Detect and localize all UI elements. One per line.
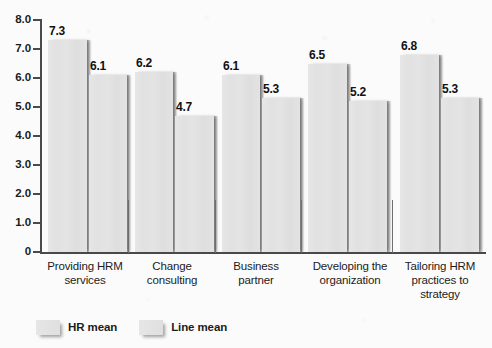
category-separator bbox=[301, 200, 302, 253]
bar-line-mean: 5.3 bbox=[262, 98, 300, 252]
y-axis-tick bbox=[33, 222, 42, 224]
y-axis-tick-label-wrap: 1.0 bbox=[0, 217, 31, 229]
bar-hr-mean: 6.1 bbox=[222, 75, 260, 252]
y-axis-tick-label: 0 bbox=[1, 246, 31, 258]
y-axis-tick-label: 7.0 bbox=[1, 43, 31, 55]
y-axis-tick bbox=[33, 193, 42, 195]
y-axis-tick-label-wrap: 6.0 bbox=[0, 72, 31, 84]
y-axis-tick bbox=[33, 135, 42, 137]
chart-legend: HR meanLine mean bbox=[36, 320, 227, 335]
category-label-line: practices to bbox=[390, 273, 490, 287]
legend-item: Line mean bbox=[139, 320, 227, 335]
y-axis-tick-label: 3.0 bbox=[1, 159, 31, 171]
bar-value-label: 7.3 bbox=[49, 25, 65, 37]
bar-value-label: 6.2 bbox=[136, 57, 152, 69]
category-label-line: strategy bbox=[390, 287, 490, 301]
bar-hr-mean: 6.5 bbox=[308, 64, 347, 253]
bar-value-label: 5.2 bbox=[350, 86, 366, 98]
legend-swatch bbox=[36, 320, 60, 335]
bar-hr-mean: 7.3 bbox=[48, 40, 87, 252]
bar-value-label: 6.1 bbox=[90, 60, 106, 72]
x-axis-line bbox=[40, 252, 486, 254]
y-axis-tick-label-wrap: 7.0 bbox=[0, 43, 31, 55]
legend-label: HR mean bbox=[68, 322, 117, 334]
bar-value-label: 5.3 bbox=[442, 83, 458, 95]
y-axis-tick bbox=[33, 48, 42, 50]
bar-hr-mean: 6.2 bbox=[135, 72, 173, 252]
legend-label: Line mean bbox=[171, 322, 227, 334]
bar-value-label: 5.3 bbox=[263, 83, 279, 95]
y-axis-tick bbox=[33, 164, 42, 166]
y-axis-tick-label: 5.0 bbox=[1, 101, 31, 113]
category-separator bbox=[215, 200, 216, 253]
bar-line-mean: 5.3 bbox=[441, 98, 479, 252]
bar-value-label: 4.7 bbox=[176, 101, 192, 113]
category-label-line: Change bbox=[125, 259, 219, 273]
y-axis-tick-label: 6.0 bbox=[1, 72, 31, 84]
category-separator bbox=[128, 200, 129, 253]
bar-line-mean: 5.2 bbox=[349, 101, 387, 252]
category-label-line: partner bbox=[209, 273, 303, 287]
y-axis-tick-label: 4.0 bbox=[1, 130, 31, 142]
bar-line-mean: 4.7 bbox=[175, 116, 214, 252]
y-axis-tick-label: 2.0 bbox=[1, 188, 31, 200]
category-separator bbox=[392, 200, 393, 253]
bar-shadow bbox=[387, 101, 391, 252]
y-axis-tick bbox=[33, 19, 42, 21]
category-label: Tailoring HRMpractices tostrategy bbox=[390, 259, 490, 301]
y-axis-tick-label-wrap: 0 bbox=[0, 246, 31, 258]
category-label-line: Business bbox=[209, 259, 303, 273]
y-axis-tick-label-wrap: 3.0 bbox=[0, 159, 31, 171]
bar-value-label: 6.1 bbox=[223, 60, 239, 72]
category-label-line: consulting bbox=[125, 273, 219, 287]
category-label: Businesspartner bbox=[209, 259, 303, 287]
y-axis-tick bbox=[33, 77, 42, 79]
y-axis-tick-label-wrap: 4.0 bbox=[0, 130, 31, 142]
bar-line-mean: 6.1 bbox=[89, 75, 127, 252]
bar-value-label: 6.8 bbox=[401, 40, 417, 52]
y-axis-tick-label-wrap: 5.0 bbox=[0, 101, 31, 113]
y-axis-tick-label-wrap: 8.0 bbox=[0, 14, 31, 26]
category-label: Providing HRMservices bbox=[30, 259, 140, 287]
y-axis-tick bbox=[33, 106, 42, 108]
bar-hr-mean: 6.8 bbox=[400, 55, 439, 252]
legend-item: HR mean bbox=[36, 320, 117, 335]
bar-chart: 01.02.03.04.05.06.07.08.0 7.36.16.24.76.… bbox=[0, 0, 492, 348]
bar-value-label: 6.5 bbox=[309, 49, 325, 61]
category-label-line: Providing HRM bbox=[30, 259, 140, 273]
bar-shadow bbox=[479, 98, 483, 252]
category-label: Changeconsulting bbox=[125, 259, 219, 287]
category-label-line: services bbox=[30, 273, 140, 287]
y-axis-tick-label: 8.0 bbox=[1, 14, 31, 26]
y-axis-tick-label: 1.0 bbox=[1, 217, 31, 229]
legend-swatch bbox=[139, 320, 163, 335]
category-label-line: Tailoring HRM bbox=[390, 259, 490, 273]
y-axis-tick-label-wrap: 2.0 bbox=[0, 188, 31, 200]
